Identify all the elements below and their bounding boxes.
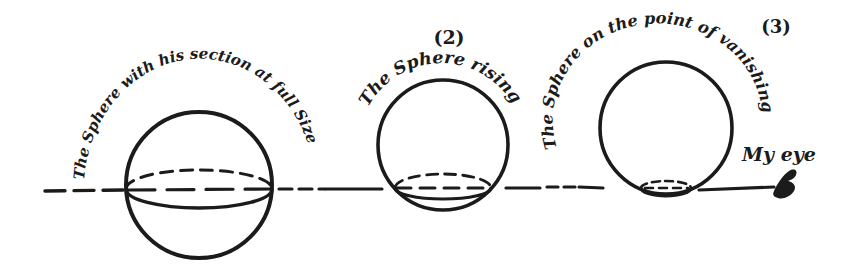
my-eye-label: My eye: [741, 143, 816, 165]
sphere-1-section-midline-dashed: [128, 189, 271, 190]
stage-marker-2: (2): [433, 26, 464, 48]
plane-line-right-solid: [699, 187, 774, 190]
eye-icon: [773, 170, 796, 199]
sphere-1-outline: [126, 112, 272, 258]
sphere-3-caption: The Sphere on the point of vanishing: [538, 8, 778, 151]
sphere-1-section-top-dashed: [126, 170, 272, 189]
sphere-2-group: [378, 80, 508, 210]
stage-marker-3: (3): [761, 16, 791, 37]
plane-line-gap2-solid2: [579, 187, 603, 188]
sphere-1-section-bottom: [126, 189, 272, 208]
flatland-sphere-figure: The Sphere with his section at full Size…: [0, 0, 857, 268]
figure-canvas: The Sphere with his section at full Size…: [0, 0, 857, 268]
sphere-3-group: [600, 62, 732, 196]
sphere-3-outline: [600, 62, 732, 194]
sphere-2-section-top-dashed: [395, 174, 491, 188]
sphere-2-section-bottom: [395, 188, 491, 199]
sphere-2-caption: The Sphere rising: [354, 47, 526, 109]
sphere-1-group: [126, 112, 272, 258]
plane-line-left-dashed: [45, 190, 126, 191]
